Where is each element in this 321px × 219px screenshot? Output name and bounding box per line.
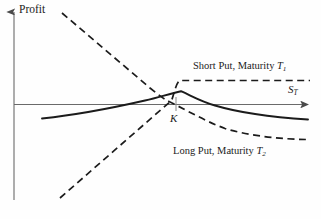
curve-short-put-t1 — [60, 81, 310, 199]
annotation-short-put-subscript: 1 — [283, 65, 287, 73]
annotation-long-put-subscript: 2 — [262, 150, 266, 158]
x-axis-label-subscript: T — [294, 88, 298, 97]
payoff-diagram-figure: Profit ST K Short Put, Maturity T1 Long … — [0, 0, 321, 219]
curve-long-put-t2 — [62, 13, 306, 140]
annotation-long-put-text: Long Put, Maturity — [173, 145, 256, 156]
y-axis-label: Profit — [19, 4, 45, 16]
plot-canvas — [0, 0, 321, 219]
annotation-short-put: Short Put, Maturity T1 — [193, 61, 286, 72]
strike-label-k: K — [170, 113, 177, 124]
x-axis-label: ST — [288, 84, 298, 95]
annotation-long-put: Long Put, Maturity T2 — [173, 146, 266, 157]
annotation-short-put-text: Short Put, Maturity — [193, 60, 277, 71]
